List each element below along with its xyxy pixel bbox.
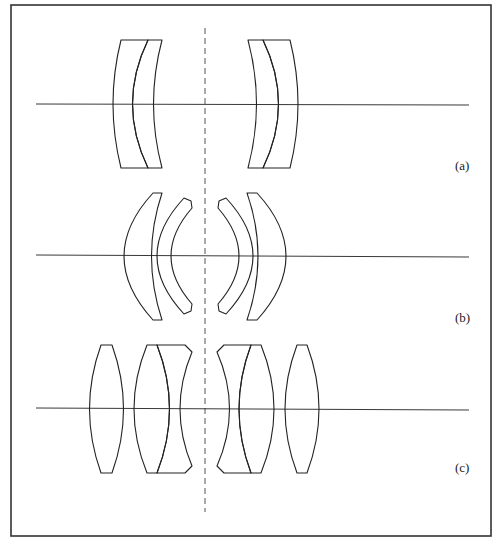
panel-label-a: (a) <box>455 158 469 173</box>
lens-diagram-figure: (a) (b) (c) <box>0 0 502 544</box>
panel-a: (a) <box>36 40 469 173</box>
panel-b: (b) <box>36 193 470 325</box>
lens-element-b1 <box>124 193 162 320</box>
optical-axis-c <box>36 408 469 410</box>
lens-element-a4 <box>263 40 298 168</box>
right-doublet-a <box>248 40 298 168</box>
panel-label-c: (c) <box>455 460 469 475</box>
panel-label-b: (b) <box>455 310 470 325</box>
optical-axis-a <box>36 104 469 105</box>
lens-element-c1 <box>90 345 124 473</box>
lens-element-a3 <box>248 40 279 168</box>
panel-c: (c) <box>36 345 469 475</box>
